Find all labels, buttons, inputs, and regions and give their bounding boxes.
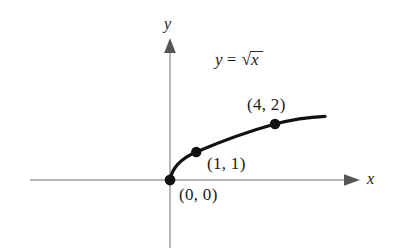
equation-label: y = √x: [215, 51, 259, 68]
point-label-origin: (0, 0): [179, 186, 218, 203]
data-point-4-2: [270, 119, 280, 129]
figure-canvas: y x y = √x (0, 0) (1, 1) (4, 2): [0, 0, 414, 252]
graph-svg: [0, 0, 414, 252]
point-label-four-two: (4, 2): [247, 96, 286, 113]
equation-equals: =: [227, 50, 237, 69]
point-label-one-one: (1, 1): [207, 155, 246, 172]
radicand: x: [251, 50, 259, 69]
x-axis-label: x: [367, 171, 374, 187]
x-axis-arrowhead: [344, 174, 360, 186]
radical-overbar: [250, 51, 263, 52]
radical-sign: √x: [241, 51, 259, 68]
equation-lhs: y: [215, 50, 223, 69]
data-point-0-0: [165, 175, 176, 186]
y-axis-label: y: [164, 16, 171, 32]
y-axis-arrowhead: [164, 38, 176, 53]
data-point-1-1: [191, 147, 201, 157]
radical-glyph: √: [242, 50, 251, 69]
